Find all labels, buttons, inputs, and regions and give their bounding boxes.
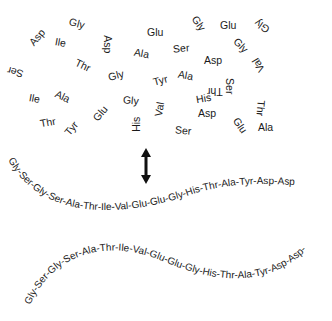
sequence-lower: Gly-Ser-Gly-Ser-Ala-Thr-Ile-Val-Glu-Glu-… (22, 241, 308, 305)
sequence-upper: Gly-Ser-Gly-Ser-Ala-Thr-Ile-Val-Glu-Glu-… (6, 155, 295, 212)
peptide-chains: Gly-Ser-Gly-Ser-Ala-Thr-Ile-Val-Glu-Glu-… (0, 0, 332, 321)
